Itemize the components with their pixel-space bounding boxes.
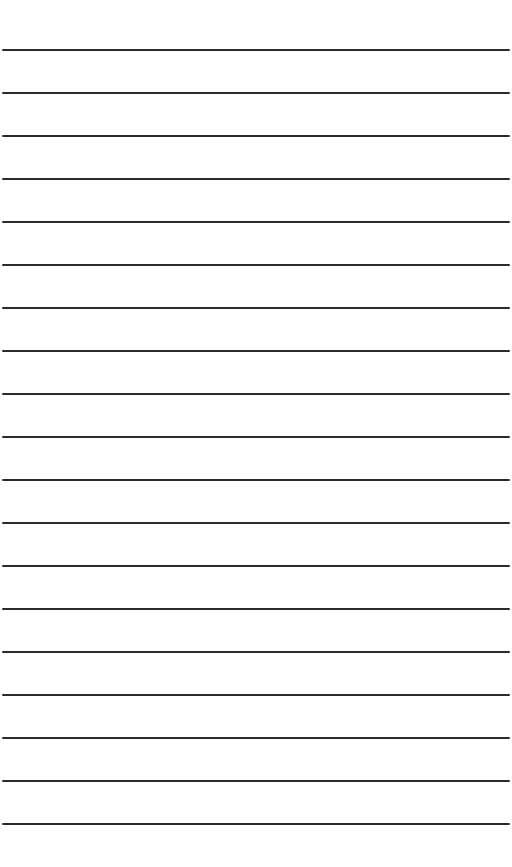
ruled-line [2,393,510,395]
ruled-line [2,49,510,51]
ruled-line [2,135,510,137]
ruled-line [2,92,510,94]
ruled-line [2,780,510,782]
ruled-line [2,307,510,309]
ruled-line [2,565,510,567]
ruled-line [2,522,510,524]
ruled-line [2,479,510,481]
ruled-line [2,823,510,825]
lined-paper [0,0,512,867]
ruled-line [2,651,510,653]
ruled-line [2,221,510,223]
ruled-line [2,436,510,438]
ruled-line [2,608,510,610]
ruled-line [2,178,510,180]
ruled-line [2,350,510,352]
ruled-line [2,694,510,696]
ruled-line [2,737,510,739]
ruled-line [2,264,510,266]
